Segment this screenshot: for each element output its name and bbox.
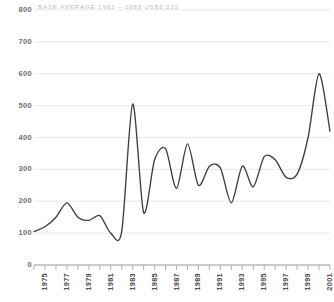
gridlines <box>34 10 330 265</box>
x-axis-tick-label: 1993 <box>238 273 246 291</box>
x-axis-tick-label: 1977 <box>63 273 71 291</box>
x-axis-tick-label: 1987 <box>173 273 181 291</box>
x-axis-tick-label: 2001 <box>326 273 334 291</box>
x-axis-tick-label: 1995 <box>260 273 268 291</box>
data-series-line <box>34 74 330 241</box>
x-axis-tick-label: 1985 <box>151 273 159 291</box>
x-axis-tick-label: 1999 <box>304 273 312 291</box>
x-axis-tick-label: 1979 <box>85 273 93 291</box>
x-axis-tick-label: 1975 <box>41 273 49 291</box>
x-axis-tick-label: 1989 <box>194 273 202 291</box>
x-axis-tick-label: 1983 <box>129 273 137 291</box>
x-axis-tick-label: 1981 <box>107 273 115 291</box>
x-axis-tick-label: 1991 <box>216 273 224 291</box>
x-axis-tick-label: 1997 <box>282 273 290 291</box>
x-axis: 1975197719791981198319851987198919911993… <box>0 270 332 302</box>
